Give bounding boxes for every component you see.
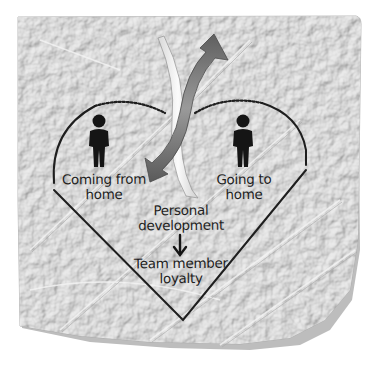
label-team-member-loyalty: Team member loyalty	[130, 256, 232, 287]
label-coming-from-home: Coming from home	[56, 172, 152, 203]
label-personal-development: Personal development	[130, 203, 232, 234]
label-going-to-home: Going to home	[208, 172, 280, 203]
